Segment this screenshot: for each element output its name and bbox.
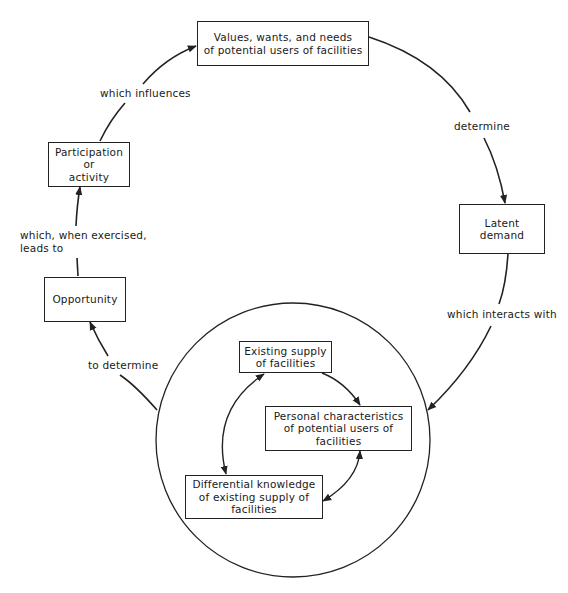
edge-opportunity-to-participation-arc-2 bbox=[76, 187, 80, 226]
node-latent-demand: Latent demand bbox=[459, 204, 545, 254]
edge-participation-to-values-arc-1 bbox=[100, 103, 125, 141]
label-which-when-exercised: which, when exercised, leads to bbox=[18, 229, 149, 254]
edge-circle-to-opportunity-arc-2 bbox=[90, 322, 108, 356]
label-to-determine: to determine bbox=[86, 359, 160, 372]
label-determine: determine bbox=[452, 120, 512, 133]
label-which-interacts-with: which interacts with bbox=[445, 308, 559, 321]
edge-opportunity-to-participation-arc-1 bbox=[77, 258, 78, 276]
node-opportunity: Opportunity bbox=[44, 277, 126, 322]
edge-values-to-latent-arc-1 bbox=[369, 37, 470, 112]
node-differential-knowledge: Differential knowledge of existing suppl… bbox=[185, 475, 323, 519]
edge-personal-differential-bidirectional bbox=[323, 451, 360, 501]
edge-latent-to-circle-arc-1 bbox=[499, 254, 508, 304]
edge-supply-to-personal bbox=[322, 373, 360, 405]
node-personal-characteristics: Personal characteristics of potential us… bbox=[265, 406, 412, 451]
node-values-wants-needs: Values, wants, and needs of potential us… bbox=[197, 21, 369, 66]
edge-participation-to-values-arc-2 bbox=[143, 46, 196, 84]
edge-values-to-latent-arc-2 bbox=[484, 138, 505, 203]
edge-supply-differential-bidirectional bbox=[222, 374, 264, 474]
edge-circle-to-opportunity-arc-1 bbox=[120, 375, 157, 410]
edge-latent-to-circle-arc-2 bbox=[428, 326, 491, 410]
label-which-influences: which influences bbox=[98, 87, 193, 100]
node-participation-or-activity: Participation or activity bbox=[48, 142, 130, 187]
node-existing-supply: Existing supply of facilities bbox=[239, 341, 332, 373]
